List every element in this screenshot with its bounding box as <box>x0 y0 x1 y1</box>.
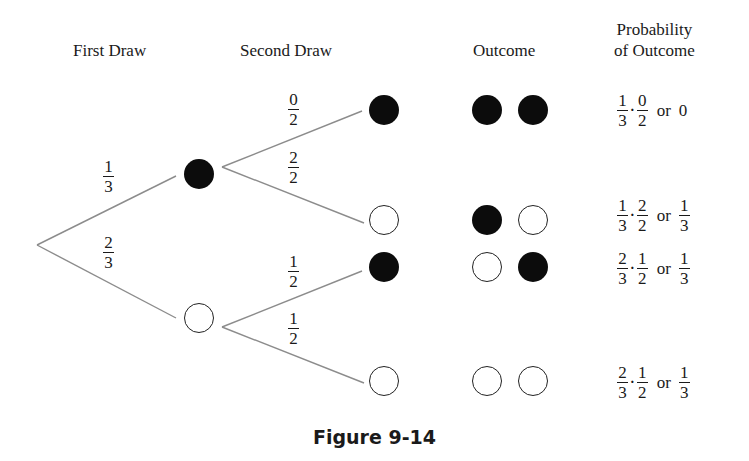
prob-3-result: 13 <box>679 250 690 287</box>
figure-caption: Figure 9-14 <box>0 426 749 448</box>
or-text: or <box>657 206 671 226</box>
probability-row-3: 23 · 12 or 13 <box>617 250 690 287</box>
branch-prob-first-black: 13 <box>103 158 114 195</box>
second-draw-black-ball-2 <box>369 252 399 282</box>
branch-prob-first-white: 23 <box>103 234 114 271</box>
prob-2-factor-a: 13 <box>617 197 628 234</box>
outcome-4-first-ball <box>472 366 502 396</box>
prob-3-factor-b: 12 <box>637 250 648 287</box>
branch-prob-black-black: 02 <box>288 91 299 128</box>
branch-prob-white-black: 12 <box>288 253 299 290</box>
multiply-dot: · <box>630 103 635 119</box>
second-draw-black-ball-1 <box>369 95 399 125</box>
multiply-dot: · <box>630 208 635 224</box>
outcome-2-second-ball <box>518 205 548 235</box>
or-text: or <box>657 259 671 279</box>
multiply-dot: · <box>630 375 635 391</box>
prob-1-factor-a: 13 <box>617 92 628 129</box>
outcome-3-second-ball <box>518 252 548 282</box>
second-draw-white-ball-2 <box>369 366 399 396</box>
branch-prob-white-white: 12 <box>288 310 299 347</box>
outcome-1-first-ball <box>472 95 502 125</box>
probability-row-2: 13 · 22 or 13 <box>617 197 690 234</box>
prob-3-factor-a: 23 <box>617 250 628 287</box>
first-draw-white-ball <box>184 303 214 333</box>
prob-2-factor-b: 22 <box>637 197 648 234</box>
prob-1-factor-b: 02 <box>637 92 648 129</box>
outcome-4-second-ball <box>518 366 548 396</box>
prob-2-result: 13 <box>679 197 690 234</box>
prob-1-result: 0 <box>679 101 688 121</box>
second-draw-white-ball-1 <box>369 205 399 235</box>
prob-4-factor-a: 23 <box>617 364 628 401</box>
probability-row-4: 23 · 12 or 13 <box>617 364 690 401</box>
outcome-2-first-ball <box>472 205 502 235</box>
multiply-dot: · <box>630 261 635 277</box>
first-draw-black-ball <box>184 159 214 189</box>
probability-row-1: 13 · 02 or 0 <box>617 92 687 129</box>
outcome-1-second-ball <box>518 95 548 125</box>
prob-4-result: 13 <box>679 364 690 401</box>
outcome-3-first-ball <box>472 252 502 282</box>
or-text: or <box>657 101 671 121</box>
or-text: or <box>657 373 671 393</box>
branch-prob-black-white: 22 <box>288 149 299 186</box>
prob-4-factor-b: 12 <box>637 364 648 401</box>
